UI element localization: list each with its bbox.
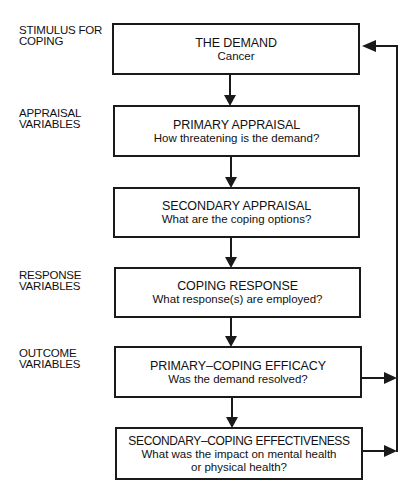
node-subtitle: What are the coping options? <box>162 213 312 226</box>
node-secondary-appraisal: SECONDARY APPRAISAL What are the coping … <box>113 187 360 238</box>
node-the-demand: THE DEMAND Cancer <box>112 23 360 75</box>
arrowhead-left <box>362 40 376 52</box>
node-coping-response: COPING RESPONSE What response(s) are emp… <box>114 267 361 318</box>
node-primary-appraisal: PRIMARY APPRAISAL How threatening is the… <box>113 105 360 157</box>
node-title: SECONDARY–COPING EFFECTIVENESS <box>128 434 349 448</box>
node-subtitle: Cancer <box>217 50 254 63</box>
node-subtitle: Was the demand resolved? <box>168 373 308 386</box>
node-title: PRIMARY–COPING EFFICACY <box>150 359 326 373</box>
node-title: PRIMARY APPRAISAL <box>173 118 300 132</box>
node-subtitle-line2: or physical health? <box>191 461 287 474</box>
arrowhead-right <box>384 445 397 457</box>
node-title: COPING RESPONSE <box>177 279 298 293</box>
node-title: THE DEMAND <box>195 36 277 50</box>
node-secondary-coping-effectiveness: SECONDARY–COPING EFFECTIVENESS What was … <box>115 427 363 480</box>
node-title: SECONDARY APPRAISAL <box>162 199 311 213</box>
node-subtitle: How threatening is the demand? <box>154 132 320 145</box>
connector-arrows <box>0 0 417 501</box>
feedback-return-line <box>376 46 397 452</box>
node-subtitle: What response(s) are employed? <box>152 293 322 306</box>
arrowhead-right <box>384 372 397 384</box>
node-primary-coping-efficacy: PRIMARY–COPING EFFICACY Was the demand r… <box>114 346 362 398</box>
node-subtitle: What was the impact on mental health <box>142 448 337 461</box>
